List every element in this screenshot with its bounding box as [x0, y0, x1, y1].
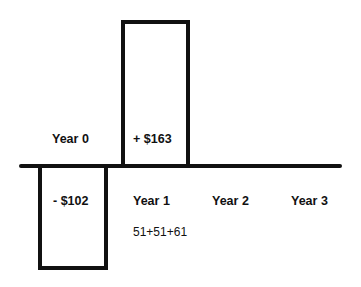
- negative-cash-flow-bar: [38, 164, 108, 270]
- period-label-year-3: Year 3: [291, 194, 328, 208]
- negative-flow-label: - $102: [53, 194, 88, 208]
- period-label-year-2: Year 2: [212, 194, 249, 208]
- positive-flow-label: + $163: [133, 132, 172, 146]
- breakdown-annotation: 51+51+61: [133, 225, 187, 239]
- period-label-year-0: Year 0: [52, 132, 89, 146]
- period-label-year-1: Year 1: [133, 194, 170, 208]
- cash-flow-diagram: Year 0 + $163 - $102 Year 1 Year 2 Year …: [0, 0, 361, 287]
- time-axis: [19, 164, 342, 168]
